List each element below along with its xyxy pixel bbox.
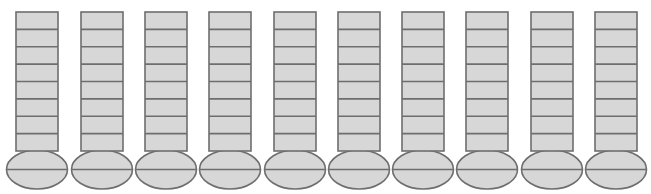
columns-diagram [0, 0, 651, 194]
column-10 [586, 12, 647, 189]
column-9 [522, 12, 583, 189]
column-8 [457, 12, 518, 189]
column-6 [329, 12, 390, 189]
column-5 [265, 12, 326, 189]
column-1 [7, 12, 68, 189]
column-2 [72, 12, 133, 189]
diagram-canvas [0, 0, 651, 194]
column-3 [136, 12, 197, 189]
column-4 [200, 12, 261, 189]
column-7 [393, 12, 454, 189]
